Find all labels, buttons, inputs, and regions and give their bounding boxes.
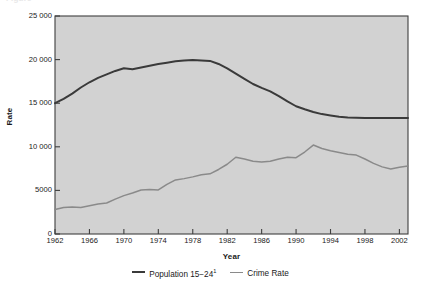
legend-entry-crime-rate[interactable]: Crime Rate (230, 269, 288, 278)
legend-label: Population 15−241 (149, 268, 216, 279)
legend-swatch-icon (132, 271, 145, 273)
legend-footnote-marker: 1 (213, 268, 216, 274)
chart-figure: Figure Rate 0500010 00015 00020 00025 00… (0, 0, 421, 298)
legend-label: Crime Rate (247, 269, 288, 278)
chart-legend: Population 15−241Crime Rate (0, 268, 421, 279)
legend-entry-population-15-24[interactable]: Population 15−241 (132, 268, 216, 279)
plot-background (55, 16, 408, 234)
x-axis-label: Year (55, 252, 408, 261)
legend-swatch-icon (230, 272, 243, 273)
